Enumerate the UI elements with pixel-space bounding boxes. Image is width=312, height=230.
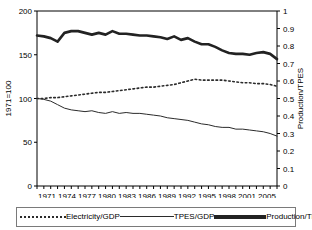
chart-canvas: 050100150200 00.10.20.30.40.50.60.70.80.… bbox=[0, 0, 312, 198]
legend-swatch-thick-line-icon bbox=[214, 212, 266, 222]
svg-text:200: 200 bbox=[19, 7, 33, 16]
chart-legend: Electricity/GDP TPES/GDP Production/TPES bbox=[16, 207, 296, 227]
legend-label-electricity-gdp: Electricity/GDP bbox=[66, 213, 120, 221]
legend-item-tpes-gdp: TPES/GDP bbox=[120, 212, 214, 222]
svg-text:150: 150 bbox=[19, 51, 33, 60]
svg-text:1974: 1974 bbox=[58, 192, 76, 198]
svg-text:1980: 1980 bbox=[98, 192, 116, 198]
data-series-group bbox=[37, 31, 277, 136]
svg-text:0: 0 bbox=[28, 182, 33, 191]
svg-text:1995: 1995 bbox=[198, 192, 216, 198]
svg-text:1992: 1992 bbox=[178, 192, 196, 198]
legend-label-production-tpes: Production/TPES bbox=[266, 213, 312, 221]
svg-text:0.6: 0.6 bbox=[283, 77, 295, 86]
plot-area-wrapper: 050100150200 00.10.20.30.40.50.60.70.80.… bbox=[0, 0, 312, 198]
legend-item-production-tpes: Production/TPES bbox=[214, 212, 312, 222]
svg-text:0.4: 0.4 bbox=[283, 112, 295, 121]
svg-text:0.7: 0.7 bbox=[283, 60, 295, 69]
chart-container: 050100150200 00.10.20.30.40.50.60.70.80.… bbox=[0, 0, 312, 230]
svg-text:100: 100 bbox=[19, 95, 33, 104]
svg-text:0.5: 0.5 bbox=[283, 95, 295, 104]
svg-text:0: 0 bbox=[283, 182, 288, 191]
svg-text:1986: 1986 bbox=[138, 192, 156, 198]
svg-text:1: 1 bbox=[283, 7, 288, 16]
svg-text:1989: 1989 bbox=[158, 192, 176, 198]
legend-swatch-dotted-icon bbox=[20, 212, 66, 222]
svg-text:0.9: 0.9 bbox=[283, 25, 295, 34]
svg-text:0.8: 0.8 bbox=[283, 42, 295, 51]
svg-text:2001: 2001 bbox=[238, 192, 256, 198]
legend-item-electricity-gdp: Electricity/GDP bbox=[20, 212, 120, 222]
svg-text:0.2: 0.2 bbox=[283, 147, 295, 156]
svg-text:50: 50 bbox=[23, 138, 32, 147]
x-axis-tick-labels: 1971197419771980198319861989199219951998… bbox=[38, 192, 276, 198]
svg-text:0.3: 0.3 bbox=[283, 130, 295, 139]
svg-text:0.1: 0.1 bbox=[283, 165, 295, 174]
svg-text:2005: 2005 bbox=[258, 192, 276, 198]
right-axis-tick-labels: 00.10.20.30.40.50.60.70.80.91 bbox=[283, 7, 295, 191]
svg-text:1998: 1998 bbox=[218, 192, 236, 198]
svg-text:1971: 1971 bbox=[38, 192, 56, 198]
legend-label-tpes-gdp: TPES/GDP bbox=[174, 213, 214, 221]
legend-swatch-thin-line-icon bbox=[120, 212, 174, 222]
svg-text:1977: 1977 bbox=[78, 192, 96, 198]
svg-text:1983: 1983 bbox=[118, 192, 136, 198]
left-axis-tick-labels: 050100150200 bbox=[19, 7, 33, 191]
right-axis-title: Production/TPES bbox=[296, 68, 305, 129]
left-axis-title: 1971=100 bbox=[4, 80, 13, 116]
